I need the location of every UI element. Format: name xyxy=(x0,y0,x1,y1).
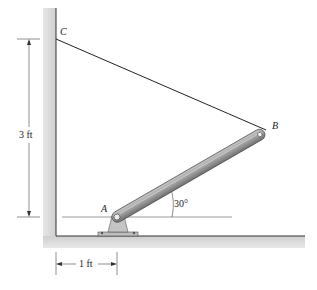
wall xyxy=(43,8,56,248)
label-dimension-vertical: 3 ft xyxy=(19,129,33,140)
label-angle: 30° xyxy=(174,198,188,209)
label-point-a: A xyxy=(101,203,107,214)
floor xyxy=(43,236,305,248)
dimension-vertical xyxy=(17,39,40,217)
label-point-c: C xyxy=(60,26,67,37)
rod-ab xyxy=(110,127,267,224)
diagram-canvas xyxy=(0,0,317,290)
label-point-b: B xyxy=(272,120,278,131)
label-dimension-horizontal: 1 ft xyxy=(79,258,93,269)
cable-cb xyxy=(56,39,266,130)
